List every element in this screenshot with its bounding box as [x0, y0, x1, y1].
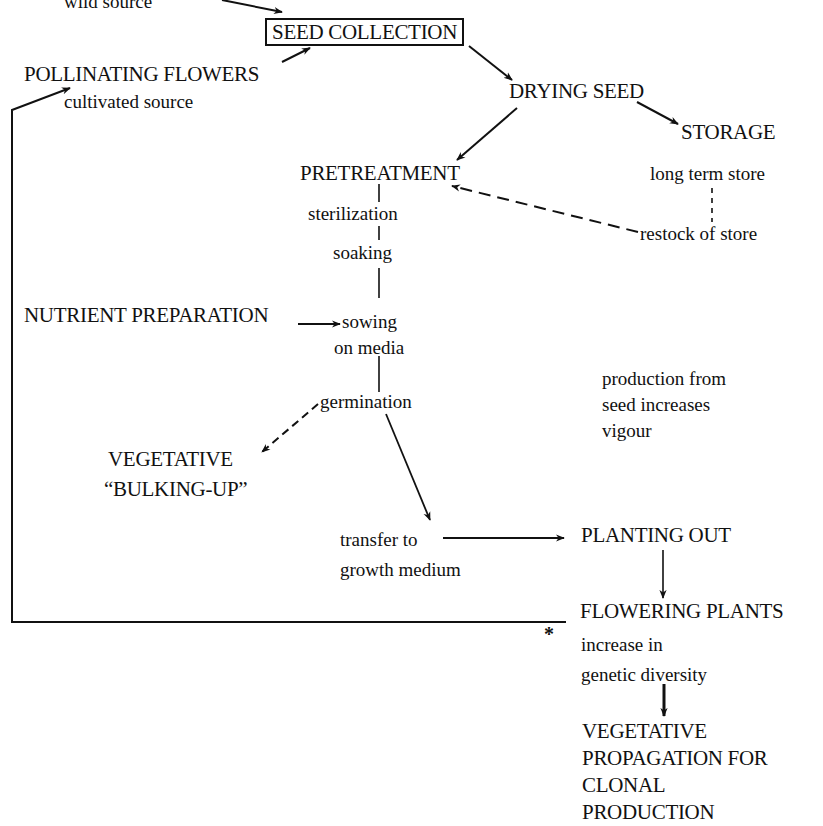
- diversity-line-1: increase in: [581, 630, 707, 660]
- node-wild-source: wild source: [64, 0, 152, 11]
- edge-drying-to-pretreatment: [457, 108, 517, 160]
- node-production-note: production from seed increases vigour: [602, 366, 726, 444]
- node-genetic-diversity: increase in genetic diversity: [581, 630, 707, 690]
- node-nutrient-preparation: NUTRIENT PREPARATION: [24, 305, 268, 326]
- edge-restock-to-pretreatment: [452, 186, 638, 232]
- vegprop-line-1: VEGETATIVE: [582, 718, 768, 745]
- bulking-line-2: “BULKING-UP”: [104, 474, 247, 504]
- production-line-2: seed increases: [602, 392, 726, 418]
- node-sterilization: sterilization: [308, 204, 398, 223]
- node-seed-collection: SEED COLLECTION: [265, 18, 464, 46]
- node-drying-seed: DRYING SEED: [509, 81, 644, 102]
- node-vegetative-bulking-up: VEGETATIVE “BULKING-UP”: [104, 444, 247, 504]
- node-germination: germination: [320, 392, 412, 411]
- bulking-line-1: VEGETATIVE: [104, 444, 247, 474]
- edge-flowering-to-pollinating: [12, 88, 566, 622]
- asterisk-marker: *: [544, 624, 554, 644]
- node-planting-out: PLANTING OUT: [581, 525, 731, 546]
- edge-wild-to-seed-collection: [222, 0, 282, 12]
- edge-germination-to-transfer: [386, 414, 430, 520]
- production-line-1: production from: [602, 366, 726, 392]
- edge-seed-collection-to-drying: [469, 46, 512, 80]
- node-sowing-on-media: sowing on media: [334, 309, 404, 361]
- production-line-3: vigour: [602, 418, 726, 444]
- node-restock-of-store: restock of store: [640, 224, 757, 243]
- node-transfer-to-growth-medium: transfer to growth medium: [340, 525, 461, 585]
- node-pretreatment: PRETREATMENT: [300, 163, 460, 184]
- node-flowering-plants: FLOWERING PLANTS: [580, 601, 783, 622]
- transfer-line-2: growth medium: [340, 555, 461, 585]
- vegprop-line-4: PRODUCTION: [582, 799, 768, 826]
- diversity-line-2: genetic diversity: [581, 660, 707, 690]
- node-storage: STORAGE: [681, 122, 775, 143]
- node-cultivated-source: cultivated source: [64, 92, 193, 111]
- node-long-term-store: long term store: [650, 164, 765, 183]
- sowing-line-2: on media: [334, 335, 404, 361]
- edge-pollinating-to-seed-collection: [282, 48, 310, 62]
- sowing-line-1: sowing: [334, 309, 404, 335]
- node-pollinating-flowers: POLLINATING FLOWERS: [24, 64, 259, 85]
- edge-germination-to-bulking: [262, 404, 318, 452]
- transfer-line-1: transfer to: [340, 525, 461, 555]
- node-soaking: soaking: [333, 243, 392, 262]
- node-vegetative-propagation: VEGETATIVE PROPAGATION FOR CLONAL PRODUC…: [582, 718, 768, 826]
- edge-drying-to-storage: [637, 102, 678, 124]
- seed-propagation-diagram: wild source SEED COLLECTION POLLINATING …: [0, 0, 823, 826]
- vegprop-line-2: PROPAGATION FOR: [582, 745, 768, 772]
- vegprop-line-3: CLONAL: [582, 772, 768, 799]
